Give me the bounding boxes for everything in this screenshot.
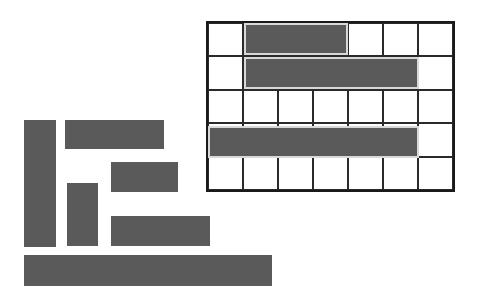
board-cell-r2-c2[interactable]: [278, 90, 313, 123]
board-cell-r2-c4[interactable]: [348, 90, 383, 123]
board-cell-r0-c4[interactable]: [348, 23, 383, 56]
board-cell-r2-c3[interactable]: [313, 90, 348, 123]
board-cell-r3-c6[interactable]: [418, 123, 453, 156]
tray-piece-small-vertical[interactable]: [67, 183, 98, 246]
board-cell-r2-c5[interactable]: [383, 90, 418, 123]
board-cell-r4-c1[interactable]: [243, 157, 278, 190]
board-cell-r0-c0[interactable]: [208, 23, 243, 56]
board-cell-r4-c3[interactable]: [313, 157, 348, 190]
board-cell-r0-c6[interactable]: [418, 23, 453, 56]
board-cell-r4-c0[interactable]: [208, 157, 243, 190]
board-cell-r1-c6[interactable]: [418, 56, 453, 89]
tray-piece-long-bottom[interactable]: [24, 255, 272, 286]
board-cell-r1-c0[interactable]: [208, 56, 243, 89]
placed-piece-placed-2[interactable]: [244, 57, 420, 89]
board-cell-r4-c5[interactable]: [383, 157, 418, 190]
placed-piece-placed-3[interactable]: [208, 126, 419, 158]
board-cell-r4-c6[interactable]: [418, 157, 453, 190]
placed-piece-placed-1[interactable]: [244, 23, 349, 55]
tray-piece-top-horizontal[interactable]: [65, 120, 164, 149]
board-cell-r2-c0[interactable]: [208, 90, 243, 123]
board-cell-r4-c2[interactable]: [278, 157, 313, 190]
board-cell-r2-c6[interactable]: [418, 90, 453, 123]
tray-piece-short-block[interactable]: [111, 162, 178, 192]
board-cell-r4-c4[interactable]: [348, 157, 383, 190]
tray-piece-tall-vertical[interactable]: [24, 120, 56, 247]
tray-piece-mid-horizontal[interactable]: [111, 216, 210, 246]
board-cell-r0-c5[interactable]: [383, 23, 418, 56]
board-cell-r2-c1[interactable]: [243, 90, 278, 123]
